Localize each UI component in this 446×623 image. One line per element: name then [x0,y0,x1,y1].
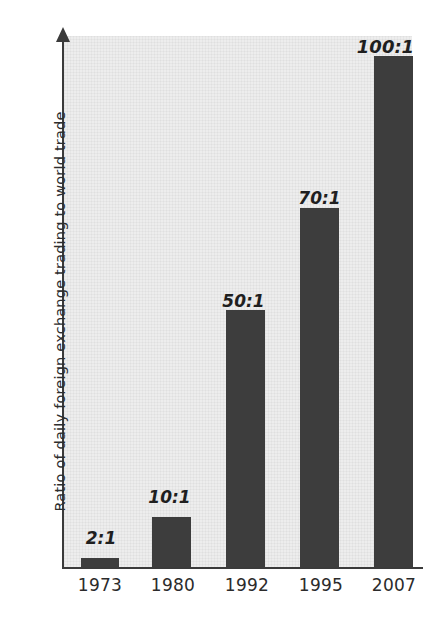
bar-value-label-1980: 10:1 [138,487,201,507]
x-tick-label-2007: 2007 [360,575,428,595]
x-tick-label-1992: 1992 [213,575,281,595]
bar-1995 [300,208,339,567]
bar-1973 [81,558,119,567]
bar-value-label-1973: 2:1 [70,528,132,548]
bar-1992 [226,310,265,567]
bar-value-label-1992: 50:1 [212,291,275,311]
x-axis-tick-labels: 19731980199219952007 [0,575,446,605]
x-tick-label-1980: 1980 [139,575,207,595]
bars-layer [0,0,446,567]
x-tick-label-1973: 1973 [66,575,134,595]
x-tick-label-1995: 1995 [287,575,355,595]
bar-2007 [374,56,413,567]
bar-value-label-2007: 100:1 [354,36,417,57]
bar-chart-figure: Ratio of daily foreign exchange trading … [0,0,446,623]
bar-1980 [152,517,191,567]
x-axis-line [62,567,423,569]
bar-value-label-1995: 70:1 [288,188,351,208]
